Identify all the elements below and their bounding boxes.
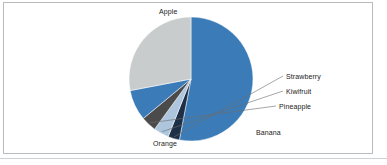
pie-chart-screenshot: Apple Strawberry Kiwifruit Pineapple Ban… — [0, 0, 387, 165]
pie-label-kiwifruit: Kiwifruit — [286, 87, 311, 96]
pie-label-banana: Banana — [256, 128, 281, 137]
pie-chart-graphic — [0, 0, 387, 165]
pie-label-pineapple: Pineapple — [279, 102, 311, 111]
pie-label-strawberry: Strawberry — [286, 72, 321, 81]
pie-slice-orange[interactable] — [129, 17, 191, 91]
pie-label-apple: Apple — [159, 7, 177, 16]
pie-slice-group — [129, 17, 253, 141]
chart-plot-area: Apple Strawberry Kiwifruit Pineapple Ban… — [0, 0, 387, 165]
pie-label-orange: Orange — [153, 139, 177, 148]
